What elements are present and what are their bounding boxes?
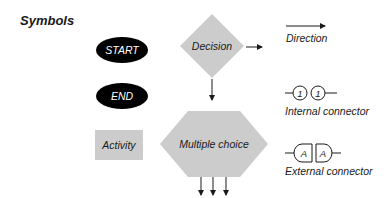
d-shape-connector-icon: A A — [285, 144, 341, 162]
symbols-diagram: Symbols START END Activity Decision Mult… — [0, 0, 389, 198]
external-connector-marker-left: A — [300, 148, 307, 159]
activity-symbol: Activity — [95, 130, 143, 160]
decision-label: Decision — [192, 40, 232, 52]
end-symbol: END — [96, 83, 148, 109]
start-symbol: START — [96, 37, 148, 63]
end-label: END — [111, 90, 134, 102]
direction-label: Direction — [286, 32, 328, 44]
internal-connector-marker-left: 1 — [297, 88, 302, 99]
multiple-choice-label: Multiple choice — [179, 138, 249, 150]
external-connector-label: External connector — [285, 165, 373, 177]
external-connector-marker-right: A — [319, 148, 326, 159]
multiple-choice-symbol: Multiple choice — [160, 111, 268, 177]
circle-connector-icon: 1 1 — [285, 86, 337, 100]
internal-connector-marker-right: 1 — [315, 88, 320, 99]
decision-symbol: Decision — [180, 14, 244, 78]
diagram-title: Symbols — [20, 13, 74, 28]
activity-label: Activity — [101, 139, 136, 151]
internal-connector-label: Internal connector — [285, 105, 370, 117]
start-label: START — [105, 44, 140, 56]
